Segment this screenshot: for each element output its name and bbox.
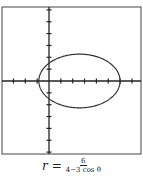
equation-fraction: 6 4−3 cos θ xyxy=(66,157,101,174)
polar-plot xyxy=(0,0,143,156)
equation-lhs: r = xyxy=(42,159,62,173)
equation-denominator: 4−3 cos θ xyxy=(66,166,101,174)
equation-numerator: 6 xyxy=(80,157,86,166)
equation-caption: r = 6 4−3 cos θ xyxy=(0,157,143,174)
